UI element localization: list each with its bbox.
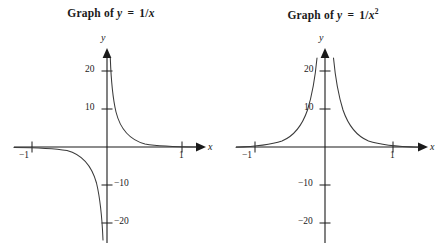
x-axis-label-left: x [208, 141, 212, 152]
y-axis-arrow-right [321, 48, 330, 58]
y-tick-label-neg20-right: −20 [298, 216, 313, 226]
y-tick-label-neg20-left: −20 [114, 216, 129, 226]
two-graph-figure: Graph of y = 1/x [0, 0, 444, 247]
y-tick-label-neg10-right: −10 [298, 178, 313, 188]
y-tick-label-10-right: 10 [304, 102, 314, 112]
y-tick-label-20-left: 20 [85, 64, 95, 74]
x-tick-label-neg1-right: −1 [242, 150, 252, 160]
x-tick-label-pos1-right: 1 [390, 150, 395, 160]
x-tick-label-pos1-left: 1 [179, 150, 184, 160]
curve-right-branch-right [334, 58, 419, 147]
graph-panel-inverse-square: Graph of y = 1/x2 y x [222, 0, 444, 247]
y-axis-arrow-left [103, 48, 112, 58]
curve-negative-branch-left [14, 147, 103, 240]
x-tick-label-neg1-left: −1 [19, 150, 29, 160]
curve-positive-branch-left [110, 58, 196, 147]
y-tick-label-10-left: 10 [85, 102, 95, 112]
y-tick-label-20-right: 20 [304, 64, 314, 74]
graph-panel-reciprocal: Graph of y = 1/x [0, 0, 222, 247]
x-axis-arrow-right [418, 143, 428, 152]
y-axis-label-right: y [319, 32, 323, 43]
plot-canvas-left [0, 0, 222, 247]
plot-canvas-right [222, 0, 444, 247]
y-tick-label-neg10-left: −10 [114, 178, 129, 188]
y-axis-label-left: y [101, 32, 105, 43]
x-axis-label-right: x [430, 141, 434, 152]
x-axis-arrow-left [196, 143, 206, 152]
